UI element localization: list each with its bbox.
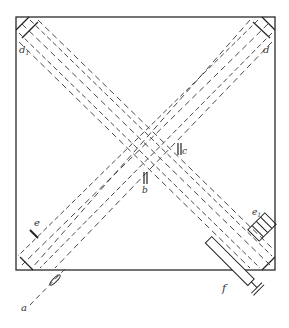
label-b: b (142, 185, 148, 195)
interferometer-diagram: d1 d c b e e1 a f (0, 0, 289, 328)
label-e: e (34, 217, 40, 228)
telescope-f (203, 235, 264, 296)
incoming-beam (30, 268, 66, 305)
label-c: c (182, 146, 187, 156)
mirror-e (30, 230, 38, 238)
label-d1: d1 (19, 44, 29, 56)
label-e1: e1 (252, 207, 261, 218)
label-f: f (221, 282, 228, 295)
label-d: d (263, 44, 269, 55)
label-a: a (21, 302, 27, 313)
beam-bundle-tr-bl (18, 20, 272, 268)
plate-c (178, 143, 181, 155)
adjustable-mirror-e1 (248, 213, 276, 241)
